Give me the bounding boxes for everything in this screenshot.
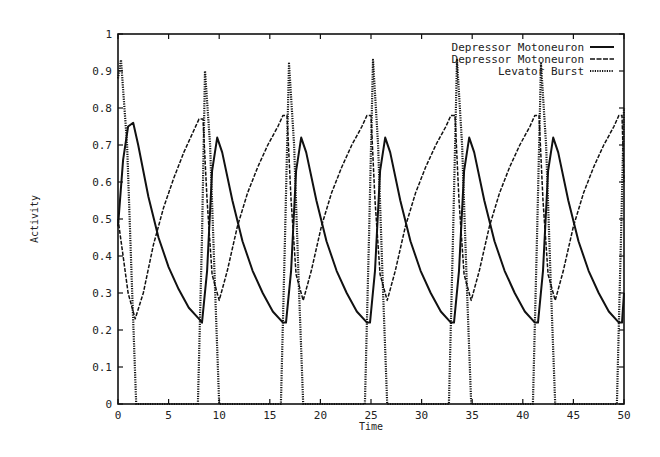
x-tick-label: 30	[415, 409, 428, 422]
x-axis-title: Time	[359, 421, 383, 432]
legend-label-levator: Levator Burst	[498, 65, 584, 78]
x-tick-label: 40	[516, 409, 529, 422]
y-tick-label: 0.5	[92, 213, 112, 226]
plot-frame	[118, 34, 624, 404]
line-chart: 0510152025303540455000.10.20.30.40.50.60…	[0, 0, 660, 457]
x-tick-label: 50	[617, 409, 630, 422]
x-tick-label: 0	[115, 409, 122, 422]
y-tick-label: 0.9	[92, 65, 112, 78]
y-tick-label: 0.7	[92, 139, 112, 152]
y-tick-label: 0.2	[92, 324, 112, 337]
y-tick-label: 0.8	[92, 102, 112, 115]
x-tick-label: 35	[466, 409, 479, 422]
y-tick-label: 0.4	[92, 250, 112, 263]
series-line-dotted	[118, 60, 624, 404]
x-tick-label: 10	[213, 409, 226, 422]
x-tick-label: 15	[263, 409, 276, 422]
y-tick-label: 0.1	[92, 361, 112, 374]
y-tick-label: 1	[105, 28, 112, 41]
legend: Depressor Motoneuron Depressor Motoneuro…	[452, 41, 614, 78]
y-tick-label: 0.6	[92, 176, 112, 189]
x-tick-label: 20	[314, 409, 327, 422]
y-tick-label: 0.3	[92, 287, 112, 300]
series-layer	[118, 60, 624, 404]
y-axis-title: Activity	[29, 195, 40, 243]
x-tick-label: 45	[567, 409, 580, 422]
x-tick-label: 5	[165, 409, 172, 422]
y-tick-label: 0	[105, 398, 112, 411]
